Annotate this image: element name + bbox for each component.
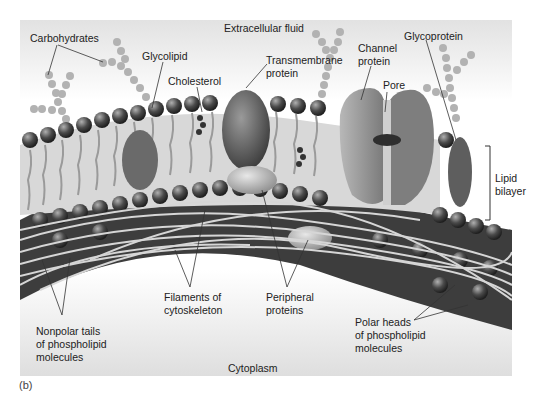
label-carbohydrates: Carbohydrates: [30, 32, 99, 45]
label-transmembrane-protein-1: Transmembrane: [266, 54, 343, 67]
label-polar-heads-3: molecules: [355, 342, 402, 355]
label-filaments-1: Filaments of: [164, 291, 221, 304]
label-cholesterol: Cholesterol: [168, 75, 221, 88]
label-extracellular-fluid: Extracellular fluid: [224, 22, 304, 35]
transmembrane-protein: [222, 90, 270, 170]
panel-label: (b): [19, 379, 32, 391]
label-glycoprotein: Glycoprotein: [404, 30, 463, 43]
label-polar-heads-1: Polar heads: [355, 316, 411, 329]
label-cytoplasm: Cytoplasm: [228, 362, 278, 375]
glycoprotein: [448, 137, 472, 207]
label-nonpolar-tails-1: Nonpolar tails: [36, 325, 100, 338]
label-nonpolar-tails-2: of phospholipid: [36, 338, 107, 351]
label-lipid-bilayer-2: bilayer: [495, 185, 526, 198]
label-channel-protein-2: protein: [358, 55, 390, 68]
label-peripheral-proteins-1: Peripheral: [266, 291, 314, 304]
pore-ring: [373, 134, 401, 146]
label-glycolipid: Glycolipid: [142, 50, 188, 63]
lipid-bilayer-bracket: [485, 146, 490, 220]
label-filaments-2: cytoskeleton: [164, 304, 222, 317]
label-channel-protein-1: Channel: [358, 42, 397, 55]
label-lipid-bilayer-1: Lipid: [495, 172, 517, 185]
label-polar-heads-2: of phospholipid: [355, 329, 426, 342]
glycolipid-mass: [122, 130, 158, 190]
label-pore: Pore: [383, 79, 405, 92]
label-nonpolar-tails-3: molecules: [36, 351, 83, 364]
label-peripheral-proteins-2: proteins: [266, 304, 303, 317]
peripheral-protein-1: [227, 166, 277, 194]
label-transmembrane-protein-2: protein: [266, 67, 298, 80]
